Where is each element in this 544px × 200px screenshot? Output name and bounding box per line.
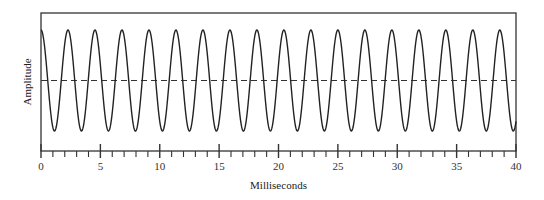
x-tick-label: 0	[38, 160, 44, 172]
x-tick-label: 35	[451, 160, 463, 172]
x-tick-label: 5	[98, 160, 104, 172]
x-tick-label: 40	[511, 160, 523, 172]
x-tick-label: 15	[214, 160, 226, 172]
x-tick-label: 25	[332, 160, 344, 172]
x-axis-title: Milliseconds	[250, 179, 307, 191]
x-axis-ticks	[41, 144, 516, 158]
x-tick-label: 20	[273, 160, 285, 172]
x-axis-tick-labels: 0510152025303540	[38, 160, 522, 172]
x-tick-label: 10	[154, 160, 166, 172]
waveform-chart: 0510152025303540 Milliseconds Amplitude	[0, 0, 544, 200]
y-axis-title: Amplitude	[21, 58, 33, 105]
x-tick-label: 30	[392, 160, 404, 172]
